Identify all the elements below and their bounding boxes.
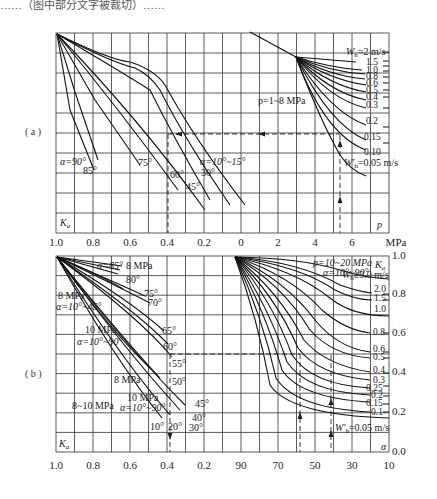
nomogram-figure: p=1~8 MPa α=90° 85° 75° 60° 45° 30° α=10…: [0, 0, 437, 499]
panel-a-alpha-curves: [57, 34, 245, 210]
svg-text:0.1: 0.1: [371, 407, 383, 417]
alpha-30-label: 30°: [201, 167, 215, 178]
svg-text:0.6: 0.6: [123, 459, 137, 471]
svg-text:0.4: 0.4: [160, 459, 174, 471]
svg-text:α: α: [381, 441, 387, 452]
svg-text:0.2: 0.2: [366, 116, 378, 126]
svg-text:0.3: 0.3: [366, 100, 378, 110]
svg-text:0.10: 0.10: [364, 147, 381, 157]
svg-text:6: 6: [349, 236, 355, 248]
svg-text:0.6: 0.6: [392, 326, 406, 338]
svg-text:10°: 10°: [150, 421, 164, 432]
svg-text:1.0: 1.0: [374, 304, 386, 314]
svg-text:0: 0: [238, 236, 244, 248]
svg-text:0.8: 0.8: [373, 327, 385, 337]
svg-text:10 MPa: 10 MPa: [85, 324, 117, 335]
alpha-85-label: 85°: [83, 165, 97, 176]
svg-text:0.4: 0.4: [160, 236, 174, 248]
svg-text:30: 30: [347, 459, 359, 471]
svg-text:50: 50: [310, 459, 322, 471]
svg-text:0.6: 0.6: [123, 236, 137, 248]
svg-text:8 MPa: 8 MPa: [58, 290, 85, 301]
svg-text:60°: 60°: [163, 341, 177, 352]
svg-text:90: 90: [236, 459, 248, 471]
panel-a-right-ticks: [383, 52, 389, 143]
svg-text:8 MPa: 8 MPa: [114, 374, 141, 385]
svg-text:1.0: 1.0: [392, 249, 406, 261]
svg-text:70: 70: [273, 459, 285, 471]
svg-text:8 MPa: 8 MPa: [126, 260, 153, 271]
svg-text:30°: 30°: [189, 422, 203, 433]
svg-text:45°: 45°: [195, 398, 209, 409]
svg-text:0.5: 0.5: [373, 352, 385, 362]
panel-b-right-axis: 1.0 0.8 0.6 0.4 0.2 0.0: [392, 249, 406, 457]
svg-text:0.2: 0.2: [392, 405, 406, 417]
svg-text:65°: 65°: [162, 325, 176, 336]
svg-text:MPa: MPa: [386, 236, 407, 248]
svg-text:70°: 70°: [148, 297, 162, 308]
svg-text:α=10°~90°: α=10°~90°: [77, 336, 122, 347]
svg-text:0.4: 0.4: [373, 365, 385, 375]
svg-text:0.8: 0.8: [86, 459, 100, 471]
svg-text:0.8: 0.8: [86, 236, 100, 248]
panel-a-x-axis: 1.0 0.8 0.6 0.4 0.2 0 2 4 6 MPa: [49, 236, 406, 248]
panel-b-x-axis: 1.0 0.8 0.6 0.4 0.2 90 70 50 30 10: [49, 459, 395, 471]
pressure-range-label: p=1~8 MPa: [258, 95, 306, 106]
panel-b-label: ( b ): [25, 368, 42, 379]
svg-text:55°: 55°: [172, 358, 186, 369]
svg-text:1.5: 1.5: [374, 293, 386, 303]
panel-a-label: ( a ): [25, 126, 41, 137]
panel-b: α=85° 8 MPa 80° 75° 70° 8 MPa α=10°~45° …: [49, 249, 406, 471]
svg-text:8~10 MPa: 8~10 MPa: [72, 400, 114, 411]
svg-text:1.0: 1.0: [49, 236, 63, 248]
svg-text:Ka: Ka: [58, 438, 70, 451]
svg-text:20°: 20°: [168, 421, 182, 432]
ka-label: Ka: [59, 217, 71, 230]
svg-text:0.8: 0.8: [392, 287, 406, 299]
svg-text:4: 4: [312, 236, 318, 248]
panel-b-velocity-curves: [235, 257, 389, 418]
panel-a: p=1~8 MPa α=90° 85° 75° 60° 45° 30° α=10…: [49, 32, 406, 248]
svg-text:α=10°~45°: α=10°~45°: [56, 301, 101, 312]
svg-text:0.15: 0.15: [364, 132, 381, 142]
svg-text:W'h=0.05 m/s: W'h=0.05 m/s: [335, 422, 389, 435]
alpha-45-label: 45°: [186, 181, 200, 192]
alpha-75-label: 75°: [138, 157, 152, 168]
svg-text:0.2: 0.2: [197, 236, 211, 248]
alpha-10-15-label: α=10°~15°: [200, 156, 245, 167]
svg-text:α=85°: α=85°: [97, 260, 123, 271]
svg-text:0.0: 0.0: [392, 445, 406, 457]
svg-text:0.2: 0.2: [197, 459, 211, 471]
svg-text:0.4: 0.4: [392, 365, 406, 377]
svg-text:10: 10: [384, 459, 396, 471]
svg-text:α=10°~90°: α=10°~90°: [120, 402, 165, 413]
svg-text:50°: 50°: [172, 376, 186, 387]
rho-label: p: [376, 219, 382, 230]
svg-text:1.0: 1.0: [49, 459, 63, 471]
alpha-60-label: 60°: [170, 169, 184, 180]
svg-text:80°: 80°: [126, 274, 140, 285]
svg-text:2: 2: [275, 236, 281, 248]
svg-text:Wh≥3.0 m/s: Wh≥3.0 m/s: [342, 269, 389, 282]
